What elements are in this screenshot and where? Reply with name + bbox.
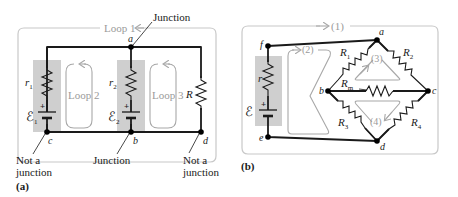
loop2-label-b: (2) — [302, 44, 314, 56]
loop3-label-b: (3) — [371, 53, 383, 65]
panel-a: Loop 1 Loop 2 — [15, 11, 220, 193]
node-d-leader — [189, 134, 199, 153]
loop4-arrow-icon-b — [385, 112, 392, 120]
battery-plus: + — [261, 99, 266, 109]
node-c-leader — [33, 134, 45, 154]
node-d-annotation-line2: junction — [182, 166, 220, 178]
node-a-label-b: a — [379, 26, 384, 37]
node-a-dot-b — [374, 37, 380, 43]
junction-a-leader — [133, 22, 152, 45]
node-c-annotation-line2: junction — [15, 166, 53, 178]
node-b-leader — [117, 134, 129, 154]
loop3-arrow-icon-b — [360, 66, 368, 74]
resistor-R-icon — [196, 76, 206, 110]
top-wire-b — [268, 40, 377, 46]
node-b-label: b — [133, 135, 138, 146]
node-a-dot — [128, 44, 134, 50]
R1-label: R1 — [339, 46, 351, 61]
Rm-leader — [359, 89, 367, 90]
node-b-annotation: Junction — [93, 154, 131, 166]
loop2-label: Loop 2 — [68, 89, 99, 101]
node-d-label: d — [203, 135, 209, 146]
battery1-plus: + — [40, 101, 45, 111]
node-b-label-b: b — [319, 85, 324, 96]
node-c-dot — [44, 129, 50, 135]
resistor-Rm-icon — [366, 86, 393, 96]
Rm-label: Rm — [340, 77, 354, 92]
node-a-label: a — [128, 33, 133, 44]
node-c-annotation-line1: Not a — [16, 154, 40, 166]
node-e-dot — [265, 134, 271, 140]
node-e-label: e — [259, 132, 264, 143]
circuit-diagrams: Loop 1 Loop 2 — [0, 0, 458, 197]
node-c-label-b: c — [432, 85, 437, 96]
panel-b-caption: (b) — [241, 160, 255, 173]
node-d-dot-b — [374, 138, 380, 144]
r1-label: r1 — [25, 76, 33, 91]
r-label-b: r — [258, 72, 263, 84]
R-label: R — [185, 88, 193, 100]
battery2-plus: + — [124, 101, 129, 111]
node-c-dot-b — [425, 88, 431, 94]
panel-a-caption: (a) — [16, 180, 29, 193]
emf-label-b: ℰ — [245, 104, 253, 119]
R3-label: R3 — [337, 116, 349, 131]
junction-a-annotation: Junction — [153, 11, 191, 23]
node-f-label: f — [260, 39, 264, 50]
loop2-path-b — [288, 50, 331, 134]
node-d-annotation-line1: Not a — [183, 154, 207, 166]
node-f-dot — [265, 43, 271, 49]
R4-label: R4 — [410, 116, 422, 131]
node-c-label: c — [48, 135, 53, 146]
r2-label: r2 — [109, 76, 117, 91]
node-b-dot-b — [325, 88, 331, 94]
panel-b: (1) + — [241, 20, 438, 173]
loop3-label: Loop 3 — [152, 89, 184, 101]
node-b-dot — [128, 129, 134, 135]
loop1-label-b: (1) — [331, 20, 344, 33]
loop4-label-b: (4) — [370, 116, 382, 128]
node-d-dot — [198, 129, 204, 135]
node-d-label-b: d — [380, 141, 386, 152]
R2-label: R2 — [402, 46, 414, 61]
